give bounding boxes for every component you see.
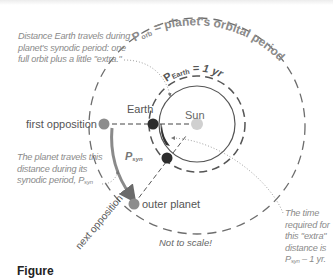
planet-note-leader — [102, 172, 118, 184]
figure-caption: Figure — [17, 264, 54, 278]
earth-dot-first — [148, 119, 159, 130]
psyn-arrow — [112, 128, 131, 196]
sun-label: Sun — [185, 109, 205, 121]
first-opposition-label: first opposition — [26, 118, 97, 130]
planet-dot-next — [129, 199, 140, 210]
outer-planet-label: outer planet — [142, 198, 200, 210]
earth-label: Earth — [127, 103, 153, 115]
not-to-scale-label: Not to scale! — [159, 237, 212, 248]
earth-period-title: PEarth = 1 yr — [161, 62, 226, 84]
planet-distance-note: The planet travels this distance during … — [17, 152, 102, 189]
orbital-period-title: Porb = planet's orbital period — [129, 14, 287, 64]
planet-dot-first — [99, 119, 110, 130]
earth-dot-next — [162, 153, 173, 164]
psyn-label: Psyn — [125, 150, 143, 162]
earth-extra-wedge — [161, 126, 170, 146]
extra-time-note: The time required for this "extra" dista… — [285, 208, 330, 268]
earth-distance-note: Distance Earth travels during planet's s… — [18, 31, 130, 66]
next-opposition-line — [134, 136, 186, 204]
next-opposition-label: next opposition — [73, 193, 125, 252]
